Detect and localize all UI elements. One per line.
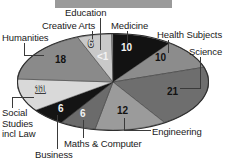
- leader-humanities-h: [24, 55, 44, 56]
- leader-health-subjects: [168, 40, 169, 53]
- leader-medicine: [127, 31, 128, 43]
- leader-business: [57, 115, 58, 149]
- label-science: Science: [189, 47, 222, 58]
- value-social-studies: 11: [35, 84, 46, 95]
- value-humanities: 18: [55, 54, 66, 65]
- value-maths-computer: 6: [80, 108, 86, 119]
- value-business: 6: [58, 103, 64, 114]
- label-social-studies-line1: Social: [2, 108, 48, 119]
- value-engineering: 12: [117, 105, 128, 116]
- leader-maths-computer: [83, 120, 84, 138]
- label-education: Education: [65, 8, 106, 19]
- label-business: Business: [35, 150, 73, 161]
- value-education: <1: [97, 51, 108, 62]
- label-humanities: Humanities: [2, 33, 49, 44]
- value-medicine: 10: [121, 42, 132, 53]
- value-science: 21: [167, 86, 178, 97]
- leader-social-studies-h: [12, 97, 34, 98]
- leader-social-studies-v: [12, 97, 13, 108]
- leader-science-h: [180, 88, 201, 89]
- leader-creative-arts: [92, 31, 93, 39]
- label-maths-computer: Maths & Computer: [64, 139, 142, 150]
- label-medicine: Medicine: [111, 21, 148, 32]
- label-health-subjects: Health Subjects: [157, 30, 222, 41]
- chart-canvas: 6 <1 10 10 21 12 6 6 11 18 Education Cre…: [0, 0, 227, 161]
- label-creative-arts: Creative Arts: [42, 21, 95, 32]
- leader-engineering-h: [124, 130, 151, 131]
- leader-science-v: [200, 57, 201, 89]
- leader-education: [100, 18, 101, 50]
- value-health-subjects: 10: [155, 52, 166, 63]
- label-social-studies-line3: incl Law: [2, 129, 48, 140]
- label-social-studies: Social Studies incl Law: [2, 108, 48, 140]
- label-engineering: Engineering: [152, 127, 202, 138]
- value-creative-arts: 6: [88, 38, 94, 49]
